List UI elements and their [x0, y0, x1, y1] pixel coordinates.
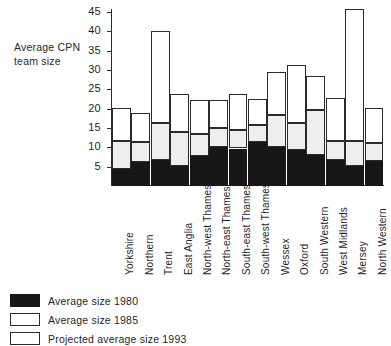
bar-segment-1985 — [365, 143, 384, 161]
y-tick-label: 25 — [88, 83, 101, 94]
bar-segment-1980 — [112, 169, 131, 186]
legend-item: Average size 1980 — [10, 292, 187, 309]
bar-segment-1985 — [287, 123, 306, 150]
bar-segment-1993 — [151, 31, 170, 124]
bar-segment-1980 — [345, 166, 364, 186]
bar-trent — [151, 9, 170, 186]
bar-segment-1993 — [306, 76, 325, 110]
bar-segment-1985 — [151, 123, 170, 160]
bar-segment-1993 — [190, 100, 209, 134]
x-axis-labels: YorkshireNorthernTrentEast AngliaNorth-w… — [112, 187, 384, 279]
chart-legend: Average size 1980Average size 1985Projec… — [10, 292, 187, 346]
bar-segment-1980 — [248, 142, 267, 186]
x-tick-label: Wessex — [281, 238, 291, 275]
bar-segment-1985 — [209, 128, 228, 147]
x-tick-label: South-west Thames — [261, 183, 271, 275]
bar-segment-1993 — [287, 65, 306, 122]
bar-segment-1985 — [306, 110, 325, 155]
bar-segment-1980 — [326, 160, 345, 186]
x-tick-label: North Western — [378, 208, 388, 275]
bar-south-west-thames — [248, 9, 267, 186]
x-tick-label: Northern — [145, 234, 155, 275]
bar-segment-1993 — [209, 100, 228, 128]
y-tick-label: 45 — [88, 6, 101, 17]
bar-north-west-thames — [190, 9, 209, 186]
bar-south-east-thames — [229, 9, 248, 186]
legend-swatch — [10, 294, 40, 307]
bar-segment-1993 — [112, 108, 131, 141]
bar-segment-1985 — [345, 141, 364, 166]
bar-segment-1980 — [190, 156, 209, 186]
bar-segment-1993 — [248, 99, 267, 125]
y-tick-label: 35 — [88, 45, 101, 56]
bar-northern — [131, 9, 150, 186]
x-tick-label: Mersey — [358, 241, 368, 275]
bar-segment-1993 — [267, 72, 286, 115]
bar-segment-1993 — [345, 9, 364, 141]
bar-segment-1980 — [209, 147, 228, 186]
plot-area — [112, 9, 384, 186]
bar-segment-1985 — [190, 134, 209, 156]
bar-north-western — [365, 9, 384, 186]
bar-segment-1980 — [306, 155, 325, 186]
bar-segment-1985 — [131, 142, 150, 162]
bar-segment-1993 — [229, 94, 248, 129]
x-tick-label: East Anglia — [184, 223, 194, 275]
x-tick-label: South-east Thames — [242, 185, 252, 276]
bar-segment-1985 — [326, 141, 345, 161]
bar-mersey — [345, 9, 364, 186]
x-tick-label: North-west Thames — [203, 185, 213, 275]
bar-segment-1985 — [248, 125, 267, 142]
bar-segment-1993 — [170, 94, 189, 131]
bar-wessex — [267, 9, 286, 186]
bar-segment-1985 — [229, 130, 248, 149]
x-tick-label: Oxford — [300, 244, 310, 275]
bar-oxford — [287, 9, 306, 186]
legend-swatch — [10, 332, 40, 345]
bar-east-anglia — [170, 9, 189, 186]
x-tick-label: Trent — [164, 251, 174, 275]
legend-swatch — [10, 313, 40, 326]
bar-segment-1980 — [267, 147, 286, 186]
bar-segment-1980 — [287, 150, 306, 186]
legend-label: Projected average size 1993 — [48, 333, 187, 345]
x-tick-label: South Western — [320, 206, 330, 275]
x-tick-label: West Midlands — [339, 207, 349, 275]
bar-segment-1980 — [365, 161, 384, 186]
bar-segment-1980 — [229, 149, 248, 186]
bar-south-western — [306, 9, 325, 186]
x-tick-label: North-east Thames — [222, 186, 232, 275]
bar-chart: Average CPN team size 51015202530354045 … — [0, 0, 391, 346]
x-tick-label: Yorkshire — [125, 232, 135, 275]
bar-segment-1980 — [151, 160, 170, 186]
legend-item: Projected average size 1993 — [10, 330, 187, 346]
y-tick-label: 5 — [95, 161, 101, 172]
bar-segment-1985 — [267, 115, 286, 147]
bar-segment-1993 — [365, 108, 384, 143]
y-tick-label: 40 — [88, 25, 101, 36]
y-tick-label: 20 — [88, 103, 101, 114]
y-tick-label: 10 — [88, 141, 101, 152]
bar-segment-1980 — [170, 166, 189, 186]
bar-segment-1985 — [112, 141, 131, 170]
bar-segment-1980 — [131, 162, 150, 186]
y-tick-label: 15 — [88, 122, 101, 133]
legend-label: Average size 1980 — [48, 295, 138, 307]
bar-yorkshire — [112, 9, 131, 186]
legend-item: Average size 1985 — [10, 311, 187, 328]
legend-label: Average size 1985 — [48, 314, 138, 326]
bar-segment-1985 — [170, 132, 189, 166]
y-tick-label: 30 — [88, 64, 101, 75]
bar-segment-1993 — [326, 98, 345, 141]
bar-west-midlands — [326, 9, 345, 186]
bar-segment-1993 — [131, 113, 150, 142]
bar-north-east-thames — [209, 9, 228, 186]
